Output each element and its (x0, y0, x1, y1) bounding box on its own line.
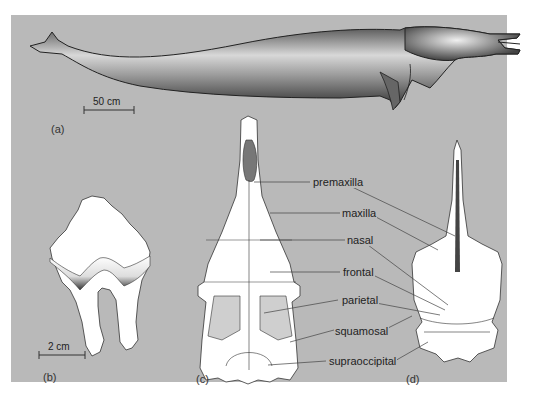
label-squamosal: squamosal (334, 326, 389, 337)
label-frontal: frontal (342, 267, 375, 278)
scale-label-50cm: 50 cm (93, 97, 120, 107)
label-parietal: parietal (341, 295, 379, 306)
tooth-drawing (50, 196, 150, 356)
scale-label-2cm: 2 cm (48, 342, 70, 352)
panel-label-c: (c) (196, 374, 209, 385)
label-premaxilla: premaxilla (312, 177, 364, 188)
skull-d-drawing (412, 140, 502, 362)
label-nasal: nasal (346, 235, 374, 246)
panel-label-d: (d) (406, 374, 419, 385)
panel-label-a: (a) (51, 124, 64, 135)
label-supraoccipital: supraoccipital (328, 356, 397, 367)
illustration (0, 0, 556, 397)
label-maxilla: maxilla (341, 208, 377, 219)
panel-label-b: (b) (43, 372, 56, 383)
skull-c-drawing (198, 116, 300, 384)
